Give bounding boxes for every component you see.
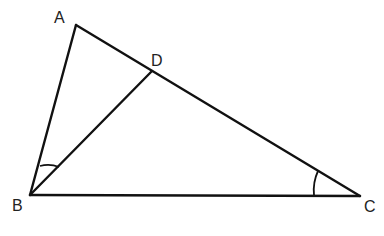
segment-ac bbox=[76, 25, 360, 196]
vertex-label-a: A bbox=[54, 9, 65, 26]
segment-ab bbox=[30, 25, 76, 195]
vertex-label-d: D bbox=[151, 52, 163, 69]
vertex-label-c: C bbox=[364, 198, 376, 215]
triangle-diagram: A D B C bbox=[0, 0, 384, 236]
vertex-label-b: B bbox=[12, 197, 23, 214]
segment-bd bbox=[30, 71, 152, 195]
segment-bc bbox=[30, 195, 360, 196]
angle-abd-arc bbox=[40, 165, 59, 167]
angle-acb-arc bbox=[314, 171, 318, 195]
